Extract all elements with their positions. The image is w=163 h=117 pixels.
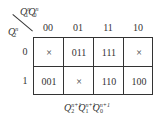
cell-0-11: 111 (94, 38, 124, 67)
out-q2-sub: 2 (71, 108, 74, 114)
row-variable-label: Qn2 (8, 24, 16, 40)
out-q0: Q (93, 102, 100, 113)
cell-1-11: 110 (94, 67, 124, 96)
col-var-q0-sub: 0 (33, 12, 36, 18)
row-var-q2-sub: 2 (13, 32, 16, 38)
column-header-01: 01 (63, 22, 93, 33)
output-label: Qn+12Qn+11Qn+10 (64, 100, 103, 116)
row-header-0: 0 (20, 46, 30, 57)
out-q0-sub: 0 (100, 108, 103, 114)
cell-1-10: 100 (124, 67, 154, 96)
column-header-11: 11 (93, 22, 123, 33)
cell-0-10: × (124, 38, 154, 67)
cell-1-00: 001 (34, 67, 64, 96)
cell-0-01: 011 (64, 38, 94, 67)
out-q1-sub: 1 (86, 108, 89, 114)
row-header-1: 1 (20, 75, 30, 86)
column-header-00: 00 (33, 22, 63, 33)
column-header-10: 10 (123, 22, 153, 33)
kmap-grid: × 011 111 × 001 × 110 100 (33, 37, 153, 95)
column-variable-label: Qn1Qn0 (20, 4, 36, 20)
cell-1-01: × (64, 67, 94, 96)
out-q1: Q (78, 102, 85, 113)
cell-0-00: × (34, 38, 64, 67)
